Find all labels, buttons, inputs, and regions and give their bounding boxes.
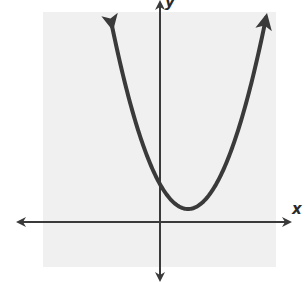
x-axis-label: x [291,200,303,218]
parabola-graph: x y [0,0,305,282]
chart-canvas: x y [0,0,305,282]
y-axis-label: y [165,0,176,11]
